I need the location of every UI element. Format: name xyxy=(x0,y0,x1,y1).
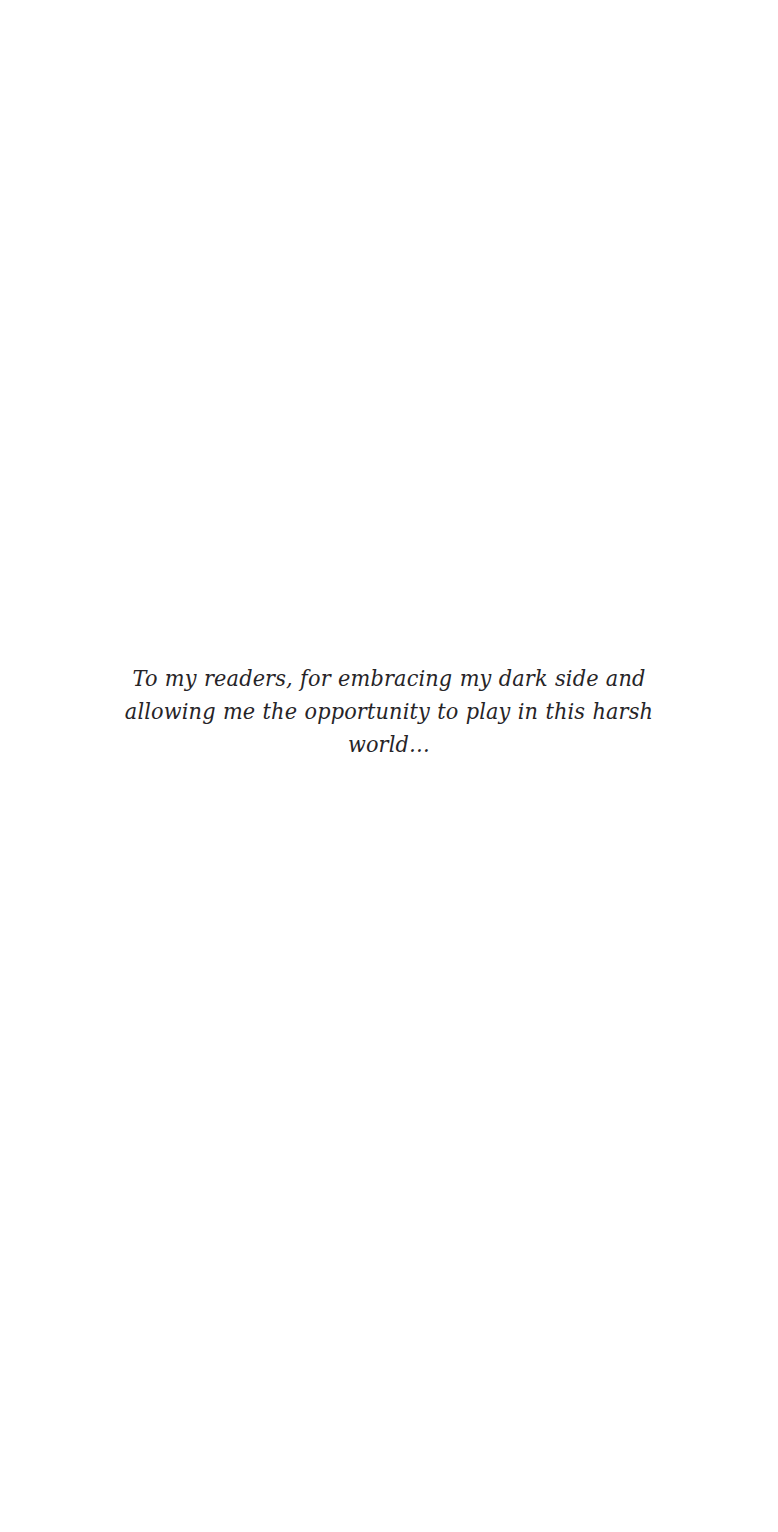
page-canvas: To my readers, for embracing my dark sid… xyxy=(0,0,778,1532)
dedication-block: To my readers, for embracing my dark sid… xyxy=(0,662,778,761)
dedication-text: To my readers, for embracing my dark sid… xyxy=(98,662,680,761)
